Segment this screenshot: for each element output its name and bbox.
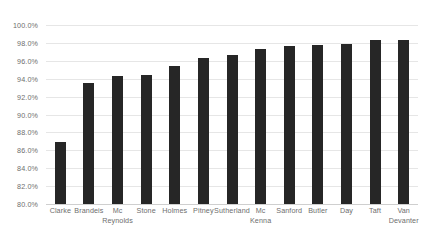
y-axis-tick-label: 94.0% — [17, 74, 38, 83]
bar — [141, 75, 152, 204]
y-axis-tick-label: 96.0% — [17, 56, 38, 65]
x-axis-tick-label-line: Kenna — [238, 216, 284, 226]
x-axis-tick-label-line: Reynolds — [95, 216, 141, 226]
bar — [112, 76, 123, 204]
x-axis-tick-label-line: Devanter — [381, 216, 427, 226]
y-axis-tick-label: 100.0% — [13, 21, 38, 30]
y-axis-tick-label: 84.0% — [17, 164, 38, 173]
x-axis-tick-label-line: Van — [381, 206, 427, 216]
bar — [255, 49, 266, 204]
x-axis-tick-labels: ClarkeBrandeisMcReynoldsStoneHolmesPitne… — [46, 206, 418, 242]
y-axis-tick-label: 88.0% — [17, 128, 38, 137]
bar — [83, 83, 94, 204]
x-axis-tick-label: VanDevanter — [381, 206, 427, 225]
y-axis-tick-label: 80.0% — [17, 200, 38, 209]
bar — [398, 40, 409, 204]
y-axis-tick-labels: 80.0%82.0%84.0%86.0%88.0%90.0%92.0%94.0%… — [0, 25, 42, 204]
bar — [312, 45, 323, 204]
bar-series — [46, 25, 418, 204]
bar-chart: 80.0%82.0%84.0%86.0%88.0%90.0%92.0%94.0%… — [0, 0, 430, 243]
y-axis-tick-label: 86.0% — [17, 146, 38, 155]
y-axis-tick-label: 82.0% — [17, 182, 38, 191]
plot-area — [46, 25, 418, 204]
y-axis-tick-label: 98.0% — [17, 38, 38, 47]
bar — [341, 44, 352, 204]
bar — [169, 66, 180, 204]
bar — [284, 46, 295, 204]
bar — [227, 55, 238, 204]
y-axis-tick-label: 90.0% — [17, 110, 38, 119]
bar — [370, 40, 381, 204]
y-axis-tick-label: 92.0% — [17, 92, 38, 101]
bar — [198, 58, 209, 204]
bar — [55, 142, 66, 204]
gridline — [46, 204, 418, 205]
